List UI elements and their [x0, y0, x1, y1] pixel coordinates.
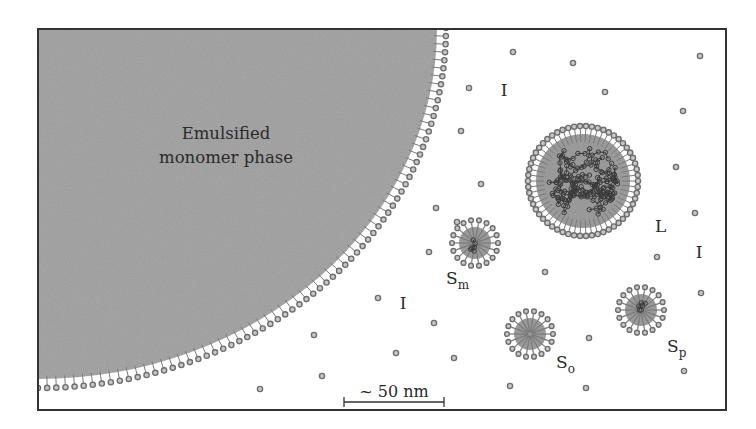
free-surfactant-molecule: [681, 368, 686, 373]
monomer-phase-region: [0, 0, 449, 391]
free-surfactant-molecule: [393, 350, 398, 355]
initiator-label: I: [501, 80, 508, 100]
free-surfactant-molecule: [680, 108, 685, 113]
particle-Sp: [616, 285, 667, 335]
diagram-canvas: Emulsified monomer phase LSmSoSp III ~ 5…: [0, 0, 756, 429]
free-surfactant-molecule: [458, 128, 463, 133]
free-surfactant-molecule: [507, 383, 512, 388]
free-surfactant-molecule: [431, 320, 436, 325]
monomer-phase-label-line1: Emulsified: [182, 124, 271, 143]
free-surfactant-molecule: [433, 205, 438, 210]
monomer-phase-label-line2: monomer phase: [159, 148, 293, 167]
particle-L: [525, 123, 640, 238]
initiator-label: I: [400, 293, 407, 313]
free-surfactant-molecule: [570, 60, 575, 65]
free-surfactant-molecule: [257, 386, 262, 391]
free-surfactant-molecule: [426, 249, 431, 254]
particle-So: [505, 309, 556, 359]
free-surfactant-molecule: [466, 85, 471, 90]
emulsion-polymerization-diagram: Emulsified monomer phase LSmSoSp III ~ 5…: [0, 0, 756, 429]
free-surfactant-molecule: [583, 385, 588, 390]
free-surfactant-molecule: [698, 290, 703, 295]
free-surfactant-molecule: [478, 181, 483, 186]
free-surfactant-molecule: [586, 335, 591, 340]
free-surfactant-molecule: [311, 332, 316, 337]
free-surfactant-molecule: [673, 164, 678, 169]
particle-label-L: L: [655, 216, 666, 236]
particle-label-Sm: Sm: [446, 268, 470, 292]
particle-Sm: [450, 218, 501, 268]
particle-label-So: So: [556, 352, 575, 376]
free-surfactant-molecule: [451, 355, 456, 360]
free-surfactant-molecule: [602, 89, 607, 94]
scale-bar-label: ~ 50 nm: [359, 382, 428, 401]
free-surfactant-molecule: [319, 373, 324, 378]
scale-bar: ~ 50 nm: [344, 382, 444, 407]
particles-group: [450, 123, 667, 359]
free-surfactant-molecule: [692, 210, 697, 215]
particle-label-Sp: Sp: [667, 336, 687, 360]
free-surfactant-molecule: [375, 295, 380, 300]
initiator-label: I: [696, 242, 703, 262]
free-surfactant-molecule: [454, 219, 459, 224]
free-surfactant-molecule: [697, 53, 702, 58]
free-surfactant-molecule: [542, 269, 547, 274]
free-surfactant-molecule: [510, 49, 515, 54]
free-surfactant-molecule: [654, 254, 659, 259]
